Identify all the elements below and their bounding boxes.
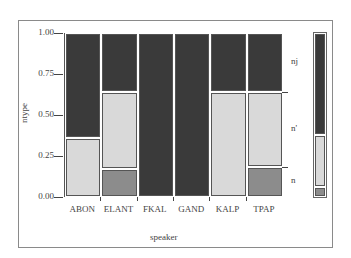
bar-segment [211,34,245,91]
bar-elant [102,33,136,197]
x-axis-title: speaker [150,232,177,242]
bar-fkal [139,33,173,197]
y-tick-label: 0.25 [24,150,54,160]
y-tick [54,156,63,157]
x-tick-label: GAND [171,204,211,214]
right-axis-label: nj [291,56,298,66]
right-axis-label: n [291,175,296,185]
x-tick [137,197,138,201]
legend-swatch-n-prime [315,136,325,187]
bar-tpap [248,33,282,197]
bar-segment [175,34,209,196]
bar-segment [102,93,136,168]
x-tick-label: FKAL [135,204,175,214]
legend-swatch-n [315,188,325,196]
x-tick-label: KALP [208,204,248,214]
bar-gand [175,33,209,197]
bar-segment [211,93,245,196]
bar-segment [102,170,136,196]
x-tick [246,197,247,201]
bar-segment [248,168,282,196]
bar-kalp [211,33,245,197]
bar-segment [66,34,100,137]
y-tick [54,74,63,75]
plot-area [64,33,283,197]
x-tick [173,197,174,201]
x-tick [100,197,101,201]
y-tick [54,197,63,198]
bar-abon [66,33,100,197]
y-tick [54,115,63,116]
y-tick-label: 0.75 [24,68,54,78]
bar-segment [248,93,282,166]
y-tick-label: 0.50 [24,109,54,119]
y-tick-label: 0.00 [24,191,54,201]
right-axis-tick [282,92,288,93]
bar-segment [102,34,136,91]
x-tick [209,197,210,201]
y-tick-label: 1.00 [24,27,54,37]
bar-segment [66,139,100,196]
x-tick-label: ELANT [99,204,139,214]
right-axis-label: n' [291,123,297,133]
legend-swatch-nj [315,34,325,134]
x-tick-label: TPAP [244,204,284,214]
y-tick [54,33,63,34]
x-tick-label: ABON [62,204,102,214]
bar-segment [139,34,173,196]
legend-bar [313,32,327,198]
bar-segment [248,34,282,91]
right-axis-tick [282,167,288,168]
